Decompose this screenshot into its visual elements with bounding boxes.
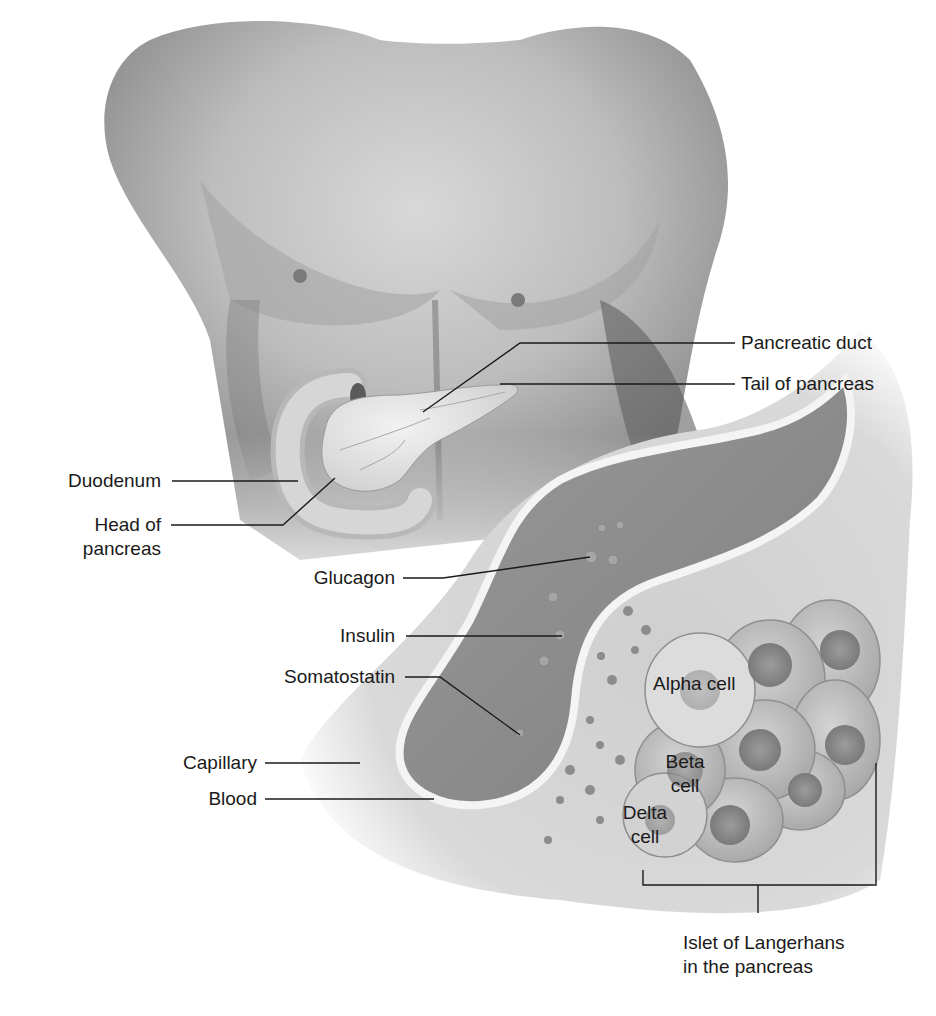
label-delta-cell-line1: Delta [615, 801, 675, 824]
label-tail-of-pancreas: Tail of pancreas [741, 372, 874, 395]
label-blood: Blood [100, 787, 257, 810]
label-islet-line1: Islet of Langerhans [683, 931, 845, 954]
label-capillary: Capillary [100, 751, 257, 774]
label-somatostatin: Somatostatin [200, 665, 395, 688]
label-islet-line2: in the pancreas [683, 955, 813, 978]
label-beta-cell-line2: cell [655, 774, 715, 797]
pancreas-diagram: Pancreatic duct Tail of pancreas Duodenu… [0, 0, 936, 1016]
illustration [0, 0, 936, 1016]
label-beta-cell-line1: Beta [655, 750, 715, 773]
label-delta-cell-line2: cell [615, 825, 675, 848]
label-glucagon: Glucagon [200, 566, 395, 589]
label-duodenum: Duodenum [0, 469, 161, 492]
label-insulin: Insulin [200, 624, 395, 647]
label-head-of-pancreas-line1: Head of [0, 513, 161, 536]
label-head-of-pancreas-line2: pancreas [0, 537, 161, 560]
label-pancreatic-duct: Pancreatic duct [741, 331, 872, 354]
label-alpha-cell: Alpha cell [653, 672, 735, 695]
